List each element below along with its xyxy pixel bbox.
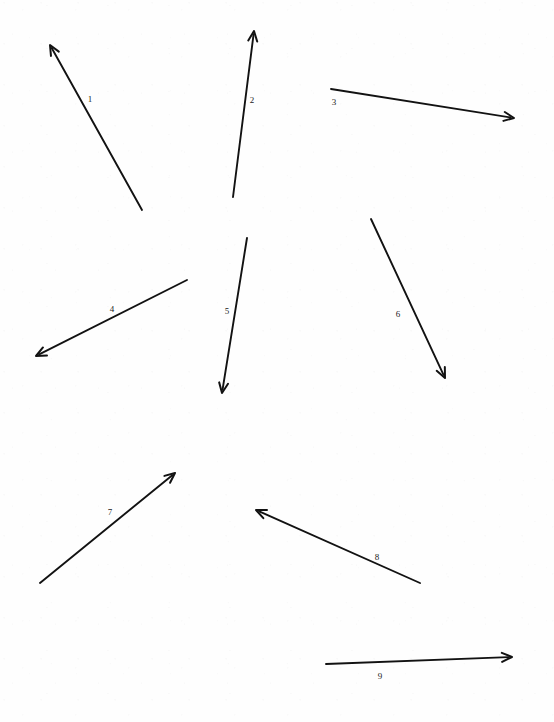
arrow-3 (331, 89, 514, 121)
arrow-5-label: 5 (225, 307, 230, 316)
arrow-5 (219, 238, 247, 393)
arrow-8 (256, 510, 420, 583)
arrow-2-shaft (233, 34, 254, 197)
arrow-6 (371, 219, 445, 378)
arrow-6-label: 6 (396, 310, 401, 319)
arrow-3-shaft (331, 89, 511, 117)
arrow-3-label: 3 (332, 98, 337, 107)
arrow-4 (36, 280, 187, 356)
arrow-9-label: 9 (378, 672, 383, 681)
arrow-9 (326, 653, 512, 664)
arrow-4-label: 4 (110, 305, 115, 314)
arrow-diagram-canvas: 123456789 (0, 0, 554, 722)
arrow-1-label: 1 (88, 95, 93, 104)
arrow-4-shaft (39, 280, 187, 354)
arrow-9-shaft (326, 657, 509, 664)
arrow-6-shaft (371, 219, 444, 375)
arrow-8-label: 8 (375, 553, 380, 562)
arrow-7-shaft (40, 475, 172, 583)
arrow-2-label: 2 (250, 96, 255, 105)
arrow-1-shaft (52, 48, 142, 210)
arrow-8-shaft (259, 511, 420, 583)
arrow-7-label: 7 (108, 508, 113, 517)
arrow-1 (50, 45, 142, 210)
arrow-2 (233, 31, 257, 197)
arrow-7 (40, 473, 175, 583)
arrow-vector-layer (0, 0, 554, 722)
